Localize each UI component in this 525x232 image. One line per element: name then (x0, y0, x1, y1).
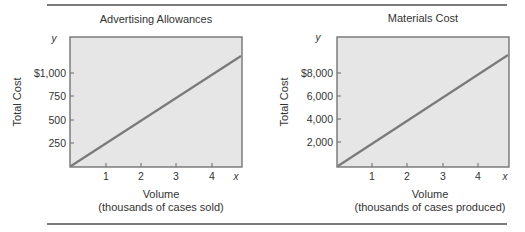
x-tick-label: 2 (404, 170, 410, 182)
chart-title: Materials Cost (388, 12, 458, 24)
charts-canvas: Advertising Allowances y 250 500 750 $1,… (0, 0, 525, 232)
y-axis-symbol: y (315, 32, 322, 43)
chart-title: Advertising Allowances (100, 13, 213, 25)
x-tick-label: 4 (209, 170, 215, 182)
x-axis-symbol: x (233, 171, 240, 182)
x-axis-label: Volume (412, 188, 449, 200)
x-axis-sublabel: (thousands of cases sold) (98, 201, 223, 213)
y-tick-label: 6,000 (307, 90, 333, 102)
chart-advertising-allowances: Advertising Allowances y 250 500 750 $1,… (11, 13, 242, 213)
x-axis-label: Volume (143, 188, 180, 200)
x-tick-label: 3 (440, 170, 446, 182)
y-axis-symbol: y (51, 33, 58, 44)
x-tick-label: 3 (173, 170, 179, 182)
y-tick-label: $1,000 (34, 67, 66, 79)
y-tick-label: 4,000 (307, 113, 333, 125)
plot-area (70, 37, 242, 167)
y-axis-label: Total Cost (278, 78, 290, 127)
x-tick-label: 4 (475, 170, 481, 182)
y-tick-label: $8,000 (301, 67, 333, 79)
x-axis-sublabel: (thousands of cases produced) (354, 201, 505, 213)
y-tick-label: 250 (48, 137, 66, 149)
y-tick-label: 500 (48, 114, 66, 126)
x-tick-label: 1 (103, 170, 109, 182)
x-tick-label: 2 (138, 170, 144, 182)
chart-materials-cost: Materials Cost y 2,000 4,000 6,000 $8,00… (278, 12, 509, 213)
y-tick-label: 2,000 (307, 136, 333, 148)
plot-area (337, 37, 509, 167)
y-tick-label: 750 (48, 90, 66, 102)
x-tick-label: 1 (369, 170, 375, 182)
y-axis-label: Total Cost (11, 78, 23, 127)
x-axis-symbol: x (502, 171, 509, 182)
